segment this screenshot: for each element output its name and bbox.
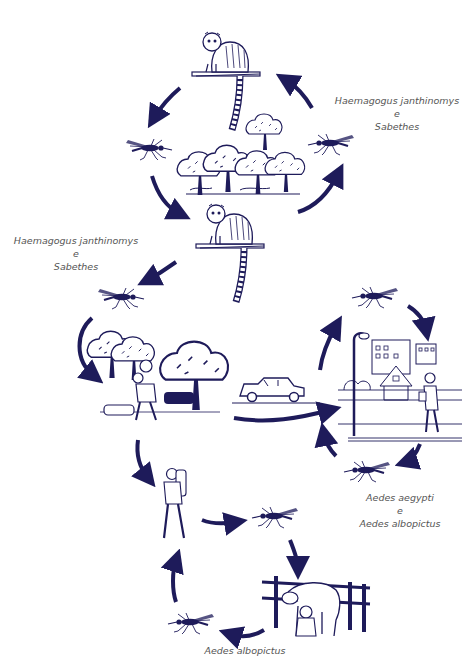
vector-label-rural: Aedes albopictus	[190, 644, 300, 657]
vector-label-sylvatic-right: Haemagogus janthinomys e Sabethes	[322, 94, 472, 133]
vector-name: Aedes albopictus	[340, 517, 460, 530]
conjunction: e	[322, 107, 472, 120]
arrow-to-city	[234, 410, 330, 420]
arrow-cattle-to-mosquito	[230, 630, 264, 636]
arrow-to-hiker	[137, 440, 148, 478]
transmission-cycle-diagram: Haemagogus janthinomys e Sabethes Haemag…	[0, 0, 476, 670]
conjunction: e	[340, 504, 460, 517]
forest-edge-worker-illustration	[87, 331, 228, 420]
arrow-to-hiker-return	[173, 560, 176, 602]
vector-name: Sabethes	[6, 260, 146, 273]
vector-name: Sabethes	[322, 120, 472, 133]
hiker-illustration	[164, 469, 186, 539]
vector-name: Aedes albopictus	[190, 644, 300, 657]
vector-name: Haemagogus janthinomys	[6, 234, 146, 247]
arrow-to-forest-edge	[148, 262, 176, 280]
vector-name: Aedes aegypti	[340, 491, 460, 504]
mosquito-forest-right-icon	[308, 134, 354, 155]
forest-illustration	[177, 114, 304, 195]
vector-label-urban: Aedes aegypti e Aedes albopictus	[340, 491, 460, 530]
mosquito-city-top-icon	[352, 287, 398, 308]
monkey-top-illustration	[192, 32, 260, 130]
vector-label-sylvatic-left: Haemagogus janthinomys e Sabethes	[6, 234, 146, 273]
mosquito-rural-bottom-icon	[168, 613, 214, 634]
cattle-farm-illustration	[262, 576, 370, 636]
vector-name: Haemagogus janthinomys	[322, 94, 472, 107]
mosquito-forest-left-icon	[126, 139, 172, 160]
arrow-to-cattle	[290, 540, 298, 568]
city-illustration	[338, 333, 462, 441]
car-illustration	[232, 378, 320, 403]
mosquito-edge-icon	[98, 288, 144, 309]
mosquito-city-bottom-icon	[344, 461, 390, 482]
conjunction: e	[6, 247, 146, 260]
arrow-hiker-to-mosquito	[202, 520, 236, 523]
monkey-middle-illustration	[196, 204, 264, 302]
mosquito-rural-top-icon	[252, 507, 298, 528]
